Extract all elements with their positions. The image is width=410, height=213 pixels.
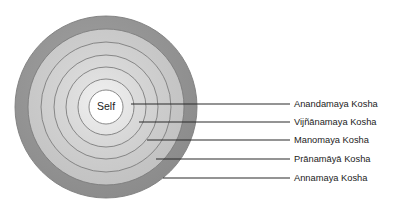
- callout-label-annamaya: Annamaya Kosha: [294, 173, 368, 183]
- callout-label-anandamaya: Anandamaya Kosha: [294, 99, 379, 109]
- kosha-diagram-svg: Self Anandamaya Kosha Vijñānamaya Kosha …: [0, 0, 410, 213]
- callout-label-manomaya: Manomaya Kosha: [294, 135, 370, 145]
- callout-label-pranamaya: Prānamāyā Kosha: [294, 154, 371, 164]
- self-label: Self: [97, 100, 115, 112]
- callout-label-vijnanamaya: Vijñānamaya Kosha: [294, 117, 377, 127]
- kosha-diagram-root: Self Anandamaya Kosha Vijñānamaya Kosha …: [0, 0, 410, 213]
